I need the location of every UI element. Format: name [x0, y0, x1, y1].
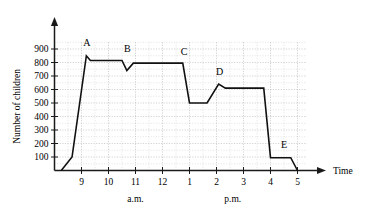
y-axis-tick-label: 400: [34, 112, 49, 122]
x-axis-tick-label: 4: [268, 177, 273, 187]
point-label-c: C: [181, 46, 188, 57]
x-axis-tick-label: 10: [104, 177, 114, 187]
period-label-pm: p.m.: [224, 194, 241, 204]
x-axis-title: Time: [333, 166, 353, 176]
y-axis-title: Number of children: [12, 69, 22, 144]
y-axis-tick-label: 100: [34, 152, 49, 162]
period-labels: a.m.p.m.: [127, 194, 241, 204]
y-axis-tick-label: 600: [34, 85, 49, 95]
x-axis-tick-label: 11: [131, 177, 140, 187]
data-series-group: [61, 56, 297, 171]
x-axis-tick-label: 1: [187, 177, 192, 187]
series-line-number-of-children: [61, 56, 297, 171]
x-axis-tick-label: 9: [79, 177, 84, 187]
x-axis-tick-label: 3: [241, 177, 246, 187]
x-axis-tick-label: 5: [295, 177, 300, 187]
point-label-b: B: [124, 43, 131, 54]
point-label-e: E: [281, 139, 287, 150]
y-axis-tick-label: 700: [34, 71, 49, 81]
y-axis-tick-label: 200: [34, 139, 49, 149]
y-axis-tick-label: 500: [34, 98, 49, 108]
x-axis-tick-label: 12: [158, 177, 168, 187]
y-axis-tick-label: 300: [34, 125, 49, 135]
point-label-a: A: [83, 37, 91, 48]
y-axis-tick-label: 900: [34, 44, 49, 54]
point-annotations: ABCDE: [83, 37, 287, 151]
y-axis-arrow-icon: [51, 17, 58, 26]
y-axis-tick-label: 800: [34, 58, 49, 68]
line-chart: 100200300400500600700800900 910111212345…: [0, 0, 367, 214]
period-label-am: a.m.: [127, 194, 143, 204]
x-axis-arrow-icon: [317, 167, 326, 174]
point-label-d: D: [216, 66, 223, 77]
chart-container: 100200300400500600700800900 910111212345…: [0, 0, 367, 214]
x-axis-tick-label: 2: [214, 177, 219, 187]
